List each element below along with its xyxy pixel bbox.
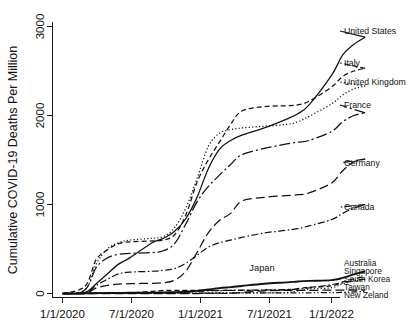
- series-line-united-states: [63, 37, 366, 293]
- x-axis-ticks: [63, 298, 332, 304]
- chart-canvas: 0 1000 2000 3000 Cumulative COVID-19 Dea…: [0, 0, 415, 335]
- y-axis-ticks: [47, 27, 53, 294]
- series-label-new-zeland: New Zeland: [344, 290, 389, 300]
- x-tick-label-3: 7/1/2021: [247, 308, 292, 320]
- series-label-france: France: [344, 100, 371, 110]
- y-axis-title: Cumulative COVID-19 Deaths Per Million: [6, 46, 20, 275]
- y-tick-label-3000: 3000: [34, 14, 46, 40]
- x-tick-label-2: 1/1/2021: [178, 308, 223, 320]
- series-label-germany: Germany: [344, 158, 380, 168]
- series-label-united-kingdom: United Kingdom: [344, 77, 406, 87]
- x-tick-label-0: 1/1/2020: [40, 308, 85, 320]
- series-label-canada: Canada: [344, 202, 375, 212]
- y-tick-label-1000: 1000: [34, 192, 46, 218]
- y-tick-label-2000: 2000: [34, 103, 46, 129]
- y-tick-label-0: 0: [34, 290, 46, 296]
- series-label-italy: Italy: [344, 58, 361, 68]
- x-tick-label-4: 1/1/2022: [309, 308, 354, 320]
- covid-deaths-line-chart: 0 1000 2000 3000 Cumulative COVID-19 Dea…: [0, 0, 415, 335]
- x-tick-label-1: 7/1/2020: [109, 308, 154, 320]
- series-line-italy: [63, 68, 366, 293]
- series-group: [63, 37, 366, 293]
- series-line-united-kingdom: [63, 86, 366, 293]
- series-label-united-states: United States: [344, 26, 397, 36]
- series-labels: United StatesItalyUnited KingdomFranceGe…: [344, 26, 406, 300]
- series-line-france: [63, 113, 366, 294]
- inline-label-japan: Japan: [249, 263, 274, 273]
